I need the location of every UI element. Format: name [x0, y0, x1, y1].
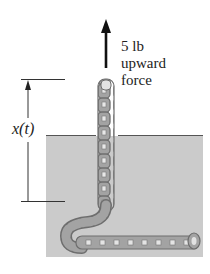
upward-arrow-icon	[101, 19, 111, 68]
chain-vertical	[98, 79, 114, 211]
height-label: x(t)	[11, 120, 35, 137]
force-label-line2: upward	[121, 55, 201, 72]
force-label-line3: force	[121, 72, 201, 89]
chain-horizontal	[76, 233, 200, 249]
chain-diagram: 5 lb upward force x(t)	[0, 0, 210, 274]
force-label-line1: 5 lb	[121, 38, 201, 55]
force-label: 5 lb upward force	[121, 38, 201, 89]
